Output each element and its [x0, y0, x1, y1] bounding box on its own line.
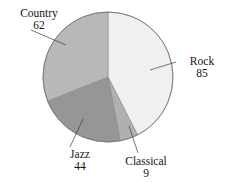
pie-label-rock-value: 85: [177, 67, 227, 79]
pie-label-rock: Rock 85: [177, 55, 227, 80]
pie-label-rock-name: Rock: [177, 55, 227, 67]
pie-label-classical-value: 9: [112, 167, 180, 179]
pie-label-classical-name: Classical: [112, 155, 180, 167]
pie-chart-figure: Country 62 Rock 85 Jazz 44 Classical 9: [0, 0, 230, 182]
pie-label-country-name: Country: [2, 7, 76, 19]
pie-label-classical: Classical 9: [112, 155, 180, 180]
pie-label-country: Country 62: [2, 7, 76, 32]
pie-label-jazz-name: Jazz: [58, 148, 102, 160]
pie-label-country-value: 62: [2, 19, 76, 31]
pie-label-jazz-value: 44: [58, 160, 102, 172]
pie-label-jazz: Jazz 44: [58, 148, 102, 173]
